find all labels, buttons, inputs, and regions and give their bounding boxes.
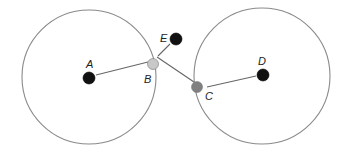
segment-d-c — [207, 76, 256, 87]
label-c: C — [205, 90, 213, 102]
label-e: E — [160, 32, 168, 44]
diagram-canvas: ABCDE — [0, 0, 344, 151]
point-b — [148, 59, 159, 70]
segment-a-b — [96, 62, 148, 75]
segment-e-b — [158, 44, 170, 56]
segment-b-c — [157, 57, 194, 82]
point-d — [257, 69, 269, 81]
label-b: B — [144, 73, 151, 85]
point-a — [83, 72, 95, 84]
two-circle-diagram: ABCDE — [0, 0, 344, 151]
label-d: D — [258, 55, 266, 67]
point-e — [170, 33, 182, 45]
point-c — [192, 82, 203, 93]
label-a: A — [85, 58, 93, 70]
